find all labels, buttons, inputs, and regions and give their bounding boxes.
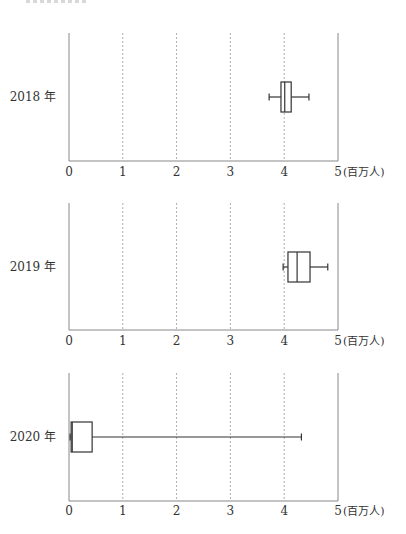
boxplot-panel-2018: 012345(百万人)2018 年: [0, 0, 406, 180]
x-axis-unit: (百万人): [343, 505, 385, 518]
chart-svg: 012345(百万人)2018 年: [0, 0, 406, 180]
iqr-box: [288, 252, 310, 282]
iqr-box: [281, 82, 291, 112]
x-tick-label: 3: [227, 504, 235, 518]
iqr-box: [71, 422, 92, 452]
boxplot-panel-2020: 012345(百万人)2020 年: [0, 340, 406, 534]
year-label: 2019 年: [10, 260, 56, 274]
x-tick-label: 4: [280, 504, 288, 518]
year-label: 2018 年: [10, 90, 56, 104]
x-tick-label: 2: [173, 504, 181, 518]
boxplot-panel-2019: 012345(百万人)2019 年: [0, 170, 406, 350]
x-tick-label: 1: [119, 504, 127, 518]
chart-svg: 012345(百万人)2020 年: [0, 340, 406, 534]
x-tick-label: 0: [65, 504, 73, 518]
chart-svg: 012345(百万人)2019 年: [0, 170, 406, 350]
x-tick-label: 5: [334, 504, 342, 518]
year-label: 2020 年: [10, 430, 56, 444]
